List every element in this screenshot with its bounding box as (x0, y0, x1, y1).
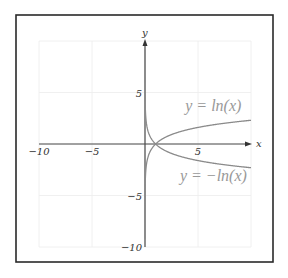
x-tick-label: −10 (28, 146, 50, 157)
tick-labels: −10−555−5−10 (28, 88, 201, 254)
curve-label-ln: y = ln(x) (183, 97, 241, 115)
y-tick-label: −5 (127, 191, 142, 202)
y-tick-label: 5 (136, 88, 142, 99)
curve-labels: y = ln(x)y = −ln(x) (178, 97, 247, 185)
x-tick-label: −5 (85, 146, 100, 157)
y-tick-label: −10 (121, 242, 143, 253)
x-axis-label: x (256, 138, 262, 149)
y-axis-label: y (141, 27, 148, 38)
curve-label-neg_ln: y = −ln(x) (178, 167, 247, 185)
chart: xy −10−555−5−10 y = ln(x)y = −ln(x) (0, 0, 288, 278)
y-axis-arrow-icon (143, 39, 148, 46)
x-tick-label: 5 (195, 146, 201, 157)
